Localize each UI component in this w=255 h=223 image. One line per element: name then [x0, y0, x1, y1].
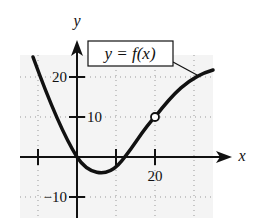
x-axis-label: x: [237, 147, 245, 164]
y-tick-label-neg10: −10: [44, 189, 67, 205]
open-circle-point: [151, 113, 159, 121]
x-tick-label-20: 20: [148, 168, 163, 184]
y-tick-label-10: 10: [87, 109, 102, 125]
y-tick-label-20: 20: [52, 69, 67, 85]
function-graph: 20 10 −10 20 y x y = f(x): [0, 0, 255, 223]
y-axis-label: y: [71, 12, 81, 30]
function-label-text: y = f(x): [102, 44, 155, 63]
